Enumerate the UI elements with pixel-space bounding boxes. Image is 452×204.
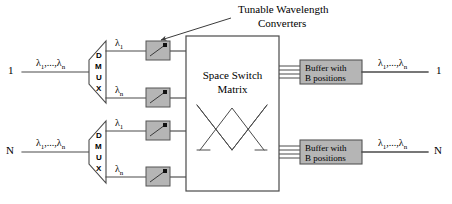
diagram-canvas: Tunable Wavelength Converters 1 N 1 N λ1… [0,0,452,204]
lambda-mid: ,..., [44,57,57,68]
diagram-vector-layer [0,0,452,204]
buffer-top-label-line2: B positions [305,73,346,83]
switch-matrix-label-line2: Matrix [186,84,279,95]
wavelength-group-output-top: λ1,...,λn [378,58,407,71]
annotation-title-line1: Tunable Wavelength [238,4,328,15]
converter-box-4 [146,167,170,186]
dmux-bottom-letter-x: X [96,165,101,173]
lambda-sub: n [120,169,124,177]
port-label-input-bottom: N [6,145,14,156]
dmux-top-letter-m: M [95,63,102,71]
space-switch-matrix-box [186,36,279,191]
port-label-output-top: 1 [436,65,442,76]
dmux-top-letter-u: U [96,74,102,82]
lambda-sub-last: n [62,143,66,151]
dmux-bottom-letter-m: M [95,143,102,151]
lambda-sub: 1 [120,123,124,131]
buffer-bottom-label-line1: Buffer with [305,143,347,153]
buffer-top-label-line1: Buffer with [305,63,347,73]
wavelength-label-top-first: λ1 [115,38,123,51]
dmux-bottom-letter-d: D [96,132,102,140]
annotation-title-line2: Converters [258,18,306,29]
dmux-top-letter-d: D [96,52,102,60]
dmux-bottom-letter-u: U [96,154,102,162]
wavelength-label-top-last: λn [115,85,123,98]
converter-box-3 [146,121,170,140]
converter-box-1 [146,41,170,60]
port-label-output-bottom: N [434,145,442,156]
lambda-mid: ,..., [44,137,57,148]
lambda-sub-last: n [404,143,408,151]
lambda-sub-last: n [62,63,66,71]
lambda-sub-last: n [404,63,408,71]
lambda-sub: n [120,90,124,98]
wavelength-group-input-top: λ1,...,λn [36,58,65,71]
wavelength-label-bottom-first: λ1 [115,118,123,131]
lambda-sub: 1 [120,43,124,51]
wavelength-group-input-bottom: λ1,...,λn [36,138,65,151]
wavelength-group-output-bottom: λ1,...,λn [378,138,407,151]
lambda-mid: ,..., [386,57,399,68]
lambda-mid: ,..., [386,137,399,148]
dmux-top-letter-x: X [96,85,101,93]
wavelength-label-bottom-last: λn [115,164,123,177]
port-label-input-top: 1 [8,65,14,76]
buffer-bottom-label-line2: B positions [305,153,346,163]
switch-matrix-label-line1: Space Switch [186,70,279,81]
converter-box-2 [146,88,170,107]
